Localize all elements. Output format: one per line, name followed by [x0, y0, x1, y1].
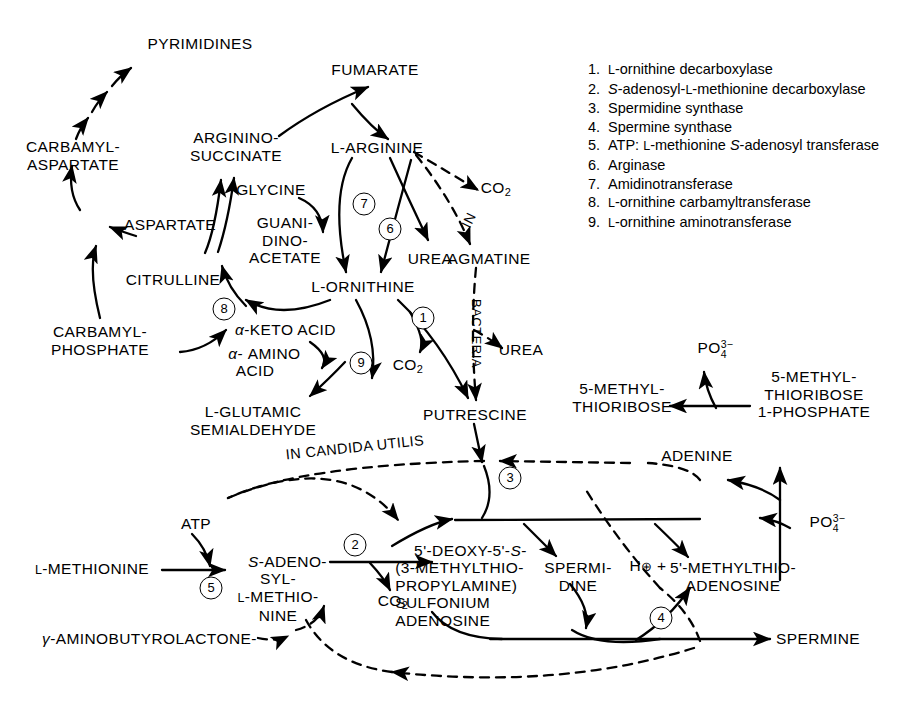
node-methylthioribose: 5-METHYL- THIORIBOSE — [572, 380, 672, 415]
node-gamma-aminobutyrolactone: γ-AMINOBUTYROLACTONE- — [23, 612, 257, 665]
node-fumarate: FUMARATE — [331, 61, 418, 79]
legend-item: 1. L-ornithine decarboxylase — [588, 60, 888, 80]
legend-number: 3. — [588, 99, 608, 118]
node-atp: ATP — [181, 515, 211, 533]
legend-number: 2. — [588, 80, 608, 99]
legend-item: 4. Spermine synthase — [588, 118, 888, 137]
node-urea-bacteria: UREA — [499, 341, 544, 359]
legend-item: 3. Spermidine synthase — [588, 99, 888, 118]
legend-text: ATP: L-methionine S-adenosyl transferase — [608, 136, 888, 156]
legend-text: L-ornithine aminotransferase — [608, 213, 888, 233]
node-agmatine: AGMATINE — [447, 250, 530, 268]
node-decarboxylated-sam: 5'-DEOXY-5'-S-(3-METHYLTHIO-PROPYLAMINE)… — [395, 524, 526, 647]
pathway-diagram-page: PYRIMIDINES CARBAMYL- ASPARTATE ASPARTAT… — [0, 0, 902, 701]
node-carbamyl-aspartate: CARBAMYL- ASPARTATE — [26, 138, 120, 173]
enzyme-marker-6: 6 — [379, 218, 402, 241]
legend-item: 5. ATP: L-methionine S-adenosyl transfer… — [588, 136, 888, 156]
enzyme-marker-9: 9 — [350, 352, 373, 375]
legend-number: 8. — [588, 193, 608, 212]
legend-text: L-ornithine carbamyltransferase — [608, 193, 888, 213]
legend-text: L-ornithine decarboxylase — [608, 60, 888, 80]
node-phosphate-bottom: PO3−4 — [791, 495, 846, 550]
legend-item: 8. L-ornithine carbamyltransferase — [588, 193, 888, 213]
node-spermine: SPERMINE — [776, 630, 860, 648]
legend-number: 5. — [588, 136, 608, 155]
node-spermidine: SPERMI- DINE — [544, 559, 611, 594]
node-urea-top: UREA — [408, 250, 453, 268]
node-methylthioadenosine: 5'-METHYLTHIO- ADENOSINE — [670, 559, 796, 594]
legend-item: 7. Amidinotransferase — [588, 175, 888, 194]
node-argininosuccinate: ARGININO- SUCCINATE — [190, 129, 282, 164]
legend-number: 9. — [588, 213, 608, 232]
legend-text: Spermidine synthase — [608, 99, 888, 118]
node-pyrimidines: PYRIMIDINES — [147, 35, 252, 53]
legend-text: Amidinotransferase — [608, 175, 888, 194]
node-adenine: ADENINE — [661, 447, 733, 465]
legend-text: S-adenosyl-L-methionine decarboxylase — [608, 80, 888, 100]
node-l-methionine: L-METHIONINE — [35, 560, 149, 580]
enzyme-marker-1: 1 — [412, 307, 435, 330]
node-co2-arginine: CO2 — [481, 179, 512, 202]
enzyme-marker-2: 2 — [344, 534, 367, 557]
node-co2-ornithine: CO2 — [393, 356, 424, 379]
enzyme-marker-3: 3 — [499, 467, 522, 490]
legend-text: Arginase — [608, 156, 888, 175]
node-l-arginine: L-ARGININE — [331, 139, 424, 157]
enzyme-marker-8: 8 — [213, 298, 236, 321]
legend-number: 4. — [588, 118, 608, 137]
node-l-ornithine: L-ORNITHINE — [311, 278, 414, 296]
legend-item: 2. S-adenosyl-L-methionine decarboxylase — [588, 80, 888, 100]
node-glycine: GLYCINE — [236, 181, 306, 199]
node-citrulline: CITRULLINE — [126, 271, 220, 289]
legend-text: Spermine synthase — [608, 118, 888, 137]
legend-item: 6. Arginase — [588, 156, 888, 175]
node-putrescine: PUTRESCINE — [423, 406, 527, 424]
node-aspartate: ASPARTATE — [124, 216, 216, 234]
node-mtr-1-phosphate: 5-METHYL- THIORIBOSE 1-PHOSPHATE — [758, 368, 871, 421]
enzyme-legend: 1. L-ornithine decarboxylase 2. S-adenos… — [588, 60, 888, 232]
node-guanidinoacetate: GUANI- DINO- ACETATE — [249, 214, 321, 267]
node-h-plus: H⊕ + — [629, 557, 666, 576]
node-l-glutamic-semialdehyde: L-GLUTAMIC SEMIALDEHYDE — [190, 403, 316, 438]
enzyme-marker-5: 5 — [200, 577, 223, 600]
legend-number: 7. — [588, 175, 608, 194]
legend-item: 9. L-ornithine aminotransferase — [588, 213, 888, 233]
node-phosphate-top: PO3−4 — [679, 321, 734, 376]
label-bacteria: BACTERIA — [469, 299, 484, 368]
legend-number: 6. — [588, 156, 608, 175]
legend-number: 1. — [588, 60, 608, 79]
enzyme-marker-7: 7 — [353, 193, 376, 216]
node-alpha-amino-acid: α- AMINOACID — [209, 327, 300, 397]
node-carbamyl-phosphate: CARBAMYL- PHOSPHATE — [51, 323, 149, 358]
enzyme-marker-4: 4 — [650, 607, 673, 630]
